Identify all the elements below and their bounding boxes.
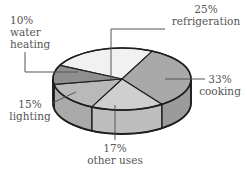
label-water-heating-name2: heating [10, 38, 60, 50]
label-lighting-pct: 15% [8, 98, 52, 110]
label-water-heating-name: water [10, 26, 60, 38]
label-lighting-name: lighting [8, 110, 52, 122]
label-lighting: 15% lighting [8, 98, 52, 122]
label-refrigeration-name: refrigeration [168, 15, 244, 27]
label-cooking-pct: 33% [196, 73, 244, 85]
label-other-uses-pct: 17% [85, 142, 145, 154]
label-other-uses: 17% other uses [85, 142, 145, 166]
label-refrigeration: 25% refrigeration [168, 3, 244, 27]
label-other-uses-name: other uses [85, 154, 145, 166]
label-cooking-name: cooking [196, 85, 244, 97]
label-refrigeration-pct: 25% [168, 3, 244, 15]
label-cooking: 33% cooking [196, 73, 244, 97]
label-water-heating-pct: 10% [10, 14, 60, 26]
label-water-heating: 10% water heating [10, 14, 60, 50]
pie-3d [53, 48, 191, 134]
